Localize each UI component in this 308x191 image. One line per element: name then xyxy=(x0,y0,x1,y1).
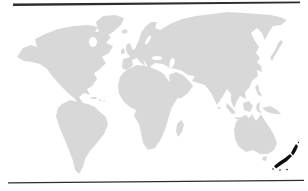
region-north-america xyxy=(17,25,113,110)
region-tasmania xyxy=(262,156,267,161)
region-iceland xyxy=(121,29,128,34)
new-zealand-south-island xyxy=(274,154,292,169)
new-zealand-offshore-islet xyxy=(298,142,299,143)
region-sri-lanka xyxy=(218,107,221,110)
scanned-map-page xyxy=(0,0,308,191)
top-rule xyxy=(13,2,300,6)
region-south-america xyxy=(56,100,108,174)
region-madagascar xyxy=(176,120,184,137)
landmasses xyxy=(17,12,287,174)
new-zealand-north-island xyxy=(291,144,298,156)
region-cuba xyxy=(90,97,97,99)
new-zealand-offshore-islet xyxy=(272,168,274,170)
black-sea xyxy=(152,56,162,60)
world-map-figure xyxy=(0,0,308,191)
region-borneo xyxy=(243,101,253,112)
new-zealand-offshore-islet xyxy=(279,169,281,171)
region-ireland xyxy=(121,48,125,54)
region-caribbean-islands xyxy=(99,99,105,102)
hudson-bay xyxy=(89,37,97,47)
new-zealand-offshore-islet xyxy=(286,169,288,171)
region-australia xyxy=(234,114,277,154)
region-japan xyxy=(270,40,283,61)
region-sulawesi xyxy=(256,102,262,113)
region-philippines xyxy=(255,84,262,96)
bottom-rule xyxy=(8,180,304,184)
region-new-guinea xyxy=(262,106,281,114)
region-new-zealand-highlight xyxy=(272,142,299,171)
